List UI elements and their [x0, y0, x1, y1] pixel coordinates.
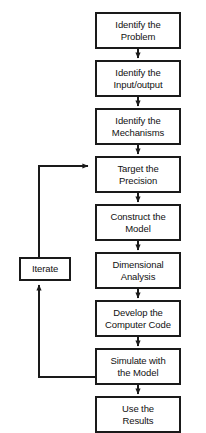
node-identify-mechanisms: Identify the Mechanisms: [95, 108, 181, 145]
node-label: Identify the Problem: [115, 19, 160, 43]
node-identify-input-output: Identify the Input/output: [95, 60, 181, 97]
node-label: Iterate: [32, 263, 58, 275]
node-label: Dimensional Analysis: [112, 259, 163, 283]
node-label: Identify the Input/output: [114, 67, 163, 91]
node-label: Simulate with the Model: [110, 355, 165, 379]
node-identify-problem: Identify the Problem: [95, 12, 181, 49]
node-target-precision: Target the Precision: [95, 156, 181, 193]
node-label: Use the Results: [122, 403, 154, 427]
node-construct-model: Construct the Model: [95, 204, 181, 241]
node-dimensional-analysis: Dimensional Analysis: [95, 252, 181, 289]
node-label: Identify the Mechanisms: [112, 115, 164, 139]
node-use-the-results: Use the Results: [95, 396, 181, 433]
edge-iterate-to-target-precision: [39, 166, 88, 257]
node-simulate-with-the-model: Simulate with the Model: [95, 348, 181, 385]
node-label: Target the Precision: [117, 163, 158, 187]
node-label: Construct the Model: [110, 211, 165, 235]
node-develop-computer-code: Develop the Computer Code: [95, 300, 181, 337]
edge-use-results-to-iterate: [39, 285, 95, 377]
node-iterate: Iterate: [19, 257, 71, 281]
node-label: Develop the Computer Code: [105, 307, 171, 331]
